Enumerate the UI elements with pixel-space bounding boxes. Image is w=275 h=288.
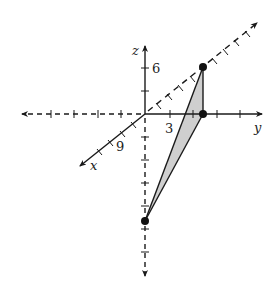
x-neg-tick: [212, 58, 217, 64]
x-neg-tick: [178, 85, 183, 91]
point-on-y: [199, 110, 207, 118]
3d-axes-diagram: z 6 y 3 x 9: [0, 0, 275, 288]
x-neg-tick: [234, 40, 239, 46]
point-on-negative-z: [141, 217, 149, 225]
x-axis-label: x: [90, 158, 98, 173]
y-tick-label: 3: [165, 121, 173, 136]
triangle-edge-bottom: [145, 114, 203, 221]
x-neg-tick: [190, 76, 195, 82]
x-neg-tick: [167, 94, 172, 100]
point-on-z-6: [199, 63, 207, 71]
y-axis-label: y: [253, 120, 262, 135]
x-neg-tick: [156, 103, 161, 109]
x-tick-label: 9: [116, 139, 124, 154]
x-neg-tick: [245, 31, 250, 37]
x-neg-tick: [223, 49, 228, 55]
z-tick-label: 6: [152, 61, 160, 76]
z-axis-label: z: [131, 43, 139, 58]
